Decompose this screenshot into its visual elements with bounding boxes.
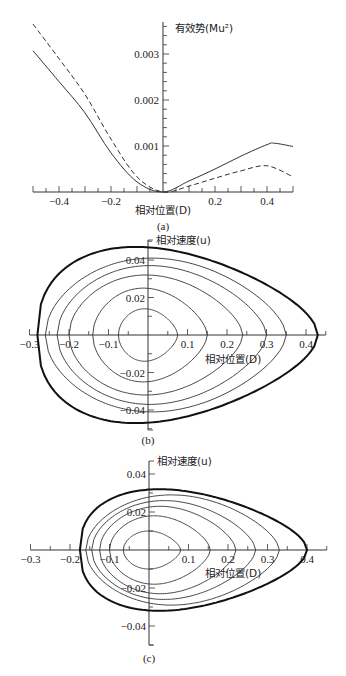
caption-a: (a) bbox=[157, 220, 170, 233]
y-tick-label: −0.04 bbox=[121, 620, 147, 632]
y-tick-label: −0.04 bbox=[120, 404, 146, 416]
y-tick-label: 0.02 bbox=[126, 292, 145, 304]
y-axis-label: 相对速度(u) bbox=[157, 455, 212, 467]
caption-c: (c) bbox=[143, 652, 156, 665]
y-axis-label: 相对速度(u) bbox=[156, 234, 211, 246]
x-tick-label: −0.3 bbox=[21, 553, 41, 565]
x-tick-label: 0.4 bbox=[260, 195, 274, 207]
x-tick-label: −0.1 bbox=[99, 338, 119, 350]
y-tick-label: 0.001 bbox=[134, 140, 159, 152]
x-tick-label: 0.4 bbox=[299, 338, 313, 350]
panel-a-effective-potential: −0.4−0.20.20.40.0010.0020.003有效势(Mu²)相对位… bbox=[33, 22, 293, 233]
x-tick-label: −0.2 bbox=[59, 338, 79, 350]
x-tick-label: 0.1 bbox=[181, 338, 195, 350]
y-axis-label: 有效势(Mu²) bbox=[175, 22, 233, 34]
x-tick-label: 0.2 bbox=[208, 195, 222, 207]
y-tick-label: −0.02 bbox=[120, 367, 145, 379]
x-tick-label: −0.2 bbox=[101, 195, 121, 207]
x-tick-label: −0.2 bbox=[60, 553, 80, 565]
figure: −0.4−0.20.20.40.0010.0020.003有效势(Mu²)相对位… bbox=[0, 0, 346, 676]
y-tick-label: 0.04 bbox=[127, 468, 147, 480]
panel-b-phase-portrait: −0.3−0.2−0.10.10.20.30.40.040.02−0.02−0.… bbox=[20, 234, 326, 447]
x-tick-label: 0.2 bbox=[221, 553, 235, 565]
x-tick-label: −0.4 bbox=[49, 195, 69, 207]
panel-c-phase-portrait: −0.3−0.2−0.10.10.20.30.40.040.02−0.02−0.… bbox=[21, 455, 327, 665]
x-axis-label: 相对位置(D) bbox=[135, 204, 191, 216]
caption-b: (b) bbox=[142, 434, 155, 447]
y-tick-label: 0.002 bbox=[134, 94, 159, 106]
y-tick-label: 0.003 bbox=[134, 48, 159, 60]
x-tick-label: 0.1 bbox=[182, 553, 196, 565]
x-tick-label: −0.3 bbox=[20, 338, 40, 350]
y-tick-label: −0.02 bbox=[121, 582, 146, 594]
x-tick-label: 0.2 bbox=[220, 338, 234, 350]
